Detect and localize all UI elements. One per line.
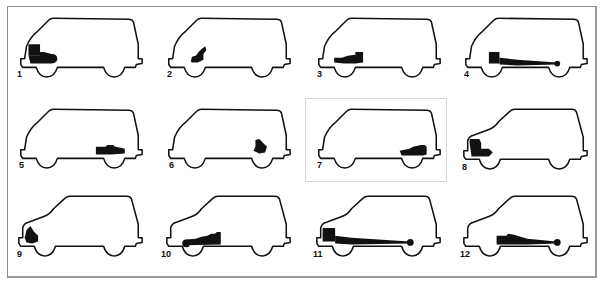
option-number: 4 [464,70,469,79]
van-bus-outline-icon [313,16,443,86]
van-diagram-1: 1 [15,16,145,86]
option-number: 9 [17,250,22,259]
van-diagram-6: 6 [163,107,293,177]
van-diagram-8: 8 [460,107,590,177]
van-diagram-11: 11 [313,194,443,264]
option-number: 10 [161,250,171,259]
van-hood-outline-icon [313,194,443,264]
van-diagram-4: 4 [460,16,590,86]
option-number: 7 [317,161,322,170]
option-number: 3 [317,70,322,79]
van-hood-outline-icon [460,194,590,264]
van-bus-outline-icon [15,16,145,86]
van-diagram-5: 5 [15,107,145,177]
van-diagram-12: 12 [460,194,590,264]
van-bus-outline-icon [163,107,293,177]
van-hood-outline-icon [163,194,293,264]
van-bus-outline-icon [163,16,293,86]
van-diagram-9: 9 [15,194,145,264]
option-number: 2 [167,70,172,79]
van-hood-outline-icon [460,107,590,177]
van-diagram-2: 2 [163,16,293,86]
van-bus-outline-icon [460,16,590,86]
option-number: 12 [460,250,470,259]
van-bus-outline-icon [15,107,145,177]
option-number: 5 [19,161,24,170]
van-diagram-10: 10 [163,194,293,264]
option-number: 1 [17,70,22,79]
option-number: 8 [462,163,467,172]
van-diagram-3: 3 [313,16,443,86]
van-hood-outline-icon [15,194,145,264]
option-number: 11 [313,250,323,259]
van-diagram-7: 7 [313,107,443,177]
option-number: 6 [169,161,174,170]
van-bus-outline-icon [313,107,443,177]
